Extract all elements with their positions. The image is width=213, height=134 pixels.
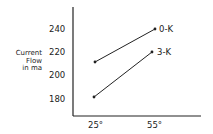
series-0k-line <box>94 28 157 64</box>
x-tick-25: 25° <box>88 120 103 130</box>
series-label-3k: 3-K <box>157 47 171 57</box>
y-tick-200: 200 <box>49 70 65 80</box>
y-tick-180: 180 <box>49 94 65 104</box>
series-label-0k: 0-K <box>159 24 173 34</box>
y-label-line: in ma <box>8 65 42 73</box>
y-tick-240: 240 <box>49 24 65 34</box>
x-tick-55: 55° <box>147 120 162 130</box>
y-tick-220: 220 <box>49 47 65 57</box>
y-axis-label: Current Flow in ma <box>8 50 42 73</box>
